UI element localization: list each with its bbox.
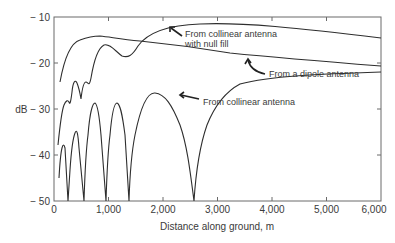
x-tick-label: 2,000 <box>150 204 175 215</box>
chart: − 10 − 20 dB − 30 − 40 − 50 0 1,000 2,00… <box>0 0 395 243</box>
y-tick-label: dB − 30 <box>15 104 50 115</box>
y-tick-label: − 20 <box>30 58 50 69</box>
svg-text:From a dipole antenna: From a dipole antenna <box>269 69 359 79</box>
x-tick-label: 0 <box>51 204 57 215</box>
annotation-collinear: From collinear antenna <box>180 92 295 107</box>
svg-text:From collinear antenna: From collinear antenna <box>203 97 295 107</box>
x-tick-label: 3,000 <box>205 204 230 215</box>
arrow-icon <box>171 28 182 36</box>
x-tick-label: 1,000 <box>96 204 121 215</box>
y-tick-label: − 10 <box>30 12 50 23</box>
svg-text:with null fill: with null fill <box>184 39 229 49</box>
series-collinear-line <box>59 72 381 201</box>
x-tick-label: 5,000 <box>314 204 339 215</box>
annotation-collinear-null-fill: From collinear antenna with null fill <box>170 27 277 49</box>
y-tick-label: − 40 <box>30 150 50 161</box>
y-tick-label: − 50 <box>30 196 50 207</box>
x-tick-label: 6,000 <box>361 204 386 215</box>
x-axis-title: Distance along ground, m <box>160 221 274 232</box>
x-tick-label: 4,000 <box>259 204 284 215</box>
svg-text:From collinear antenna: From collinear antenna <box>185 29 277 39</box>
annotation-dipole: From a dipole antenna <box>245 59 359 79</box>
